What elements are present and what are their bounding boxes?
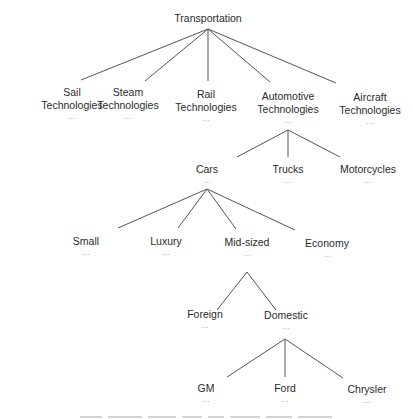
node-ford: Ford... <box>274 382 296 405</box>
edge-transportation-to-sail <box>81 29 208 80</box>
node-rail: RailTechnologies... <box>175 88 236 124</box>
edge-automotive-to-motorcycles <box>288 130 340 157</box>
node-chrysler: Chrysler... <box>347 383 386 406</box>
edge-cars-to-economy <box>207 189 295 230</box>
node-label: Rail <box>175 88 236 101</box>
node-label: Chrysler <box>347 383 386 396</box>
ellipsis-more-children: ... <box>340 176 396 186</box>
node-label: Motorcycles <box>340 163 396 176</box>
node-label: Small <box>73 235 99 248</box>
node-cars: Cars... <box>196 163 218 186</box>
node-label: Technologies <box>97 99 158 112</box>
ellipsis-more-children: ... <box>175 114 236 124</box>
node-motorcycles: Motorcycles... <box>340 163 396 186</box>
ellipsis-more-children: ... <box>198 395 215 405</box>
ellipsis-more-children: ... <box>73 248 99 258</box>
ellipsis-more-children: ... <box>257 116 318 126</box>
node-label: Foreign <box>187 308 223 321</box>
node-midsized: Mid-sized... <box>225 236 270 259</box>
edge-cars-to-small <box>118 189 207 228</box>
edge-automotive-to-cars <box>237 130 288 157</box>
node-gm: GM... <box>198 382 215 405</box>
edge-cars-to-midsized <box>207 189 236 229</box>
ellipsis-more-children: ... <box>264 322 308 332</box>
tree-edges <box>0 0 413 419</box>
node-label: Luxury <box>150 235 182 248</box>
ellipsis-more-children: ... <box>274 395 296 405</box>
node-label: Cars <box>196 163 218 176</box>
ellipsis-more-children: ... <box>196 176 218 186</box>
node-domestic: Domestic... <box>264 309 308 332</box>
edge-midsized-to-domestic <box>247 272 276 310</box>
node-foreign: Foreign... <box>187 308 223 331</box>
edge-transportation-to-automotive <box>208 29 270 82</box>
edge-transportation-to-aircraft <box>208 29 336 83</box>
node-label: Mid-sized <box>225 236 270 249</box>
node-sail: SailTechnologies... <box>41 86 102 122</box>
figure-caption-truncated <box>80 412 340 419</box>
ellipsis-more-children: ... <box>347 396 386 406</box>
ellipsis-more-children: ... <box>305 250 349 260</box>
node-trucks: Trucks... <box>272 163 303 186</box>
node-aircraft: AircraftTechnologies... <box>339 91 400 127</box>
node-transportation: Transportation <box>174 12 241 25</box>
edge-domestic-to-gm <box>227 339 285 377</box>
node-label: Aircraft <box>339 91 400 104</box>
node-label: Technologies <box>257 103 318 116</box>
ellipsis-more-children: ... <box>97 112 158 122</box>
node-steam: SteamTechnologies... <box>97 86 158 122</box>
ellipsis-more-children: ... <box>187 321 223 331</box>
node-label: Ford <box>274 382 296 395</box>
node-label: Technologies <box>339 104 400 117</box>
edge-midsized-to-foreign <box>217 272 247 310</box>
node-label: GM <box>198 382 215 395</box>
node-label: Technologies <box>175 101 236 114</box>
node-label: Economy <box>305 237 349 250</box>
node-label: Steam <box>97 86 158 99</box>
ellipsis-more-children: ... <box>339 117 400 127</box>
ellipsis-more-children: ... <box>272 176 303 186</box>
ellipsis-more-children: ... <box>225 249 270 259</box>
node-economy: Economy... <box>305 237 349 260</box>
ellipsis-more-children: ... <box>41 112 102 122</box>
node-label: Domestic <box>264 309 308 322</box>
ellipsis-more-children: ... <box>150 248 182 258</box>
node-luxury: Luxury... <box>150 235 182 258</box>
node-label: Trucks <box>272 163 303 176</box>
edge-domestic-to-chrysler <box>285 339 343 378</box>
node-label: Sail <box>41 86 102 99</box>
node-small: Small... <box>73 235 99 258</box>
node-automotive: AutomotiveTechnologies... <box>257 90 318 126</box>
node-label: Automotive <box>257 90 318 103</box>
node-label: Technologies <box>41 99 102 112</box>
node-label: Transportation <box>174 12 241 25</box>
edge-transportation-to-steam <box>145 29 208 81</box>
